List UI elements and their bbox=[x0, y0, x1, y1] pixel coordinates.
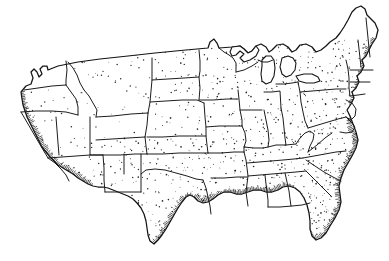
stipple-dot bbox=[120, 214, 122, 216]
stipple-dot bbox=[315, 117, 316, 118]
stipple-dot bbox=[61, 155, 63, 157]
stipple-dot bbox=[162, 200, 164, 202]
stipple-dot bbox=[55, 228, 56, 229]
stipple-dot bbox=[91, 142, 93, 144]
stipple-dot bbox=[377, 195, 379, 197]
stipple-dot bbox=[207, 169, 208, 170]
stipple-dot bbox=[168, 167, 169, 168]
border-ga-fl bbox=[268, 203, 310, 207]
stipple-dot bbox=[67, 242, 68, 243]
stipple-dot bbox=[176, 167, 177, 168]
stipple-dot bbox=[155, 59, 156, 60]
stipple-dot bbox=[102, 200, 103, 201]
stipple-dot bbox=[77, 195, 78, 196]
stipple-dot bbox=[380, 67, 381, 68]
stipple-dot bbox=[363, 199, 364, 200]
stipple-dot bbox=[131, 150, 132, 151]
stipple-dot bbox=[291, 213, 292, 214]
stipple-dot bbox=[104, 137, 105, 138]
stipple-dot bbox=[312, 181, 313, 182]
stipple-dot bbox=[212, 82, 213, 83]
stipple-dot bbox=[150, 220, 151, 221]
stipple-dot bbox=[309, 233, 310, 234]
stipple-dot bbox=[325, 81, 327, 83]
stipple-dot bbox=[155, 128, 156, 129]
stipple-dot bbox=[294, 167, 295, 168]
stipple-dot bbox=[207, 229, 208, 230]
stipple-dot bbox=[146, 202, 147, 203]
stipple-dot bbox=[335, 67, 336, 68]
stipple-dot bbox=[71, 221, 72, 222]
stipple-dot bbox=[158, 192, 159, 193]
stipple-dot bbox=[40, 180, 41, 181]
stipple-dot bbox=[223, 203, 224, 204]
stipple-dot bbox=[343, 113, 344, 114]
stipple-dot bbox=[157, 158, 158, 159]
stipple-dot bbox=[335, 56, 336, 57]
stipple-dot bbox=[346, 81, 348, 83]
stipple-dot bbox=[273, 233, 274, 234]
stipple-dot bbox=[240, 227, 241, 228]
stipple-dot bbox=[34, 177, 35, 178]
stipple-dot bbox=[353, 238, 354, 239]
stipple-dot bbox=[176, 57, 177, 58]
stipple-dot bbox=[33, 171, 35, 173]
stipple-dot bbox=[278, 119, 280, 121]
stipple-dot bbox=[298, 126, 299, 127]
stipple-dot bbox=[159, 97, 160, 98]
stipple-dot bbox=[365, 105, 366, 106]
stipple-dot bbox=[61, 113, 63, 115]
stipple-dot bbox=[247, 219, 248, 220]
stipple-dot bbox=[281, 167, 282, 168]
stipple-dot bbox=[192, 94, 193, 95]
stipple-dot bbox=[356, 238, 358, 240]
stipple-dot bbox=[372, 57, 374, 59]
stipple-dot bbox=[228, 227, 229, 228]
stipple-dot bbox=[67, 108, 68, 109]
stipple-dot bbox=[161, 149, 162, 150]
stipple-dot bbox=[126, 228, 128, 230]
stipple-dot bbox=[350, 184, 352, 186]
stipple-dot bbox=[235, 170, 237, 172]
stipple-dot bbox=[322, 47, 323, 48]
stipple-dot bbox=[132, 177, 133, 178]
stipple-dot bbox=[290, 123, 291, 124]
stipple-dot bbox=[290, 184, 291, 185]
stipple-dot bbox=[253, 166, 255, 168]
stipple-dot bbox=[373, 139, 374, 140]
stipple-dot bbox=[378, 187, 379, 188]
stipple-dot bbox=[358, 149, 359, 150]
stipple-dot bbox=[357, 172, 358, 173]
stipple-dot bbox=[230, 230, 231, 231]
stipple-dot bbox=[287, 110, 288, 111]
stipple-dot bbox=[217, 78, 219, 80]
stipple-dot bbox=[84, 62, 85, 63]
coast-hatch-tick bbox=[303, 207, 307, 208]
stipple-dot bbox=[282, 132, 283, 133]
stipple-dot bbox=[190, 138, 191, 139]
coast-hatch-tick bbox=[304, 206, 307, 207]
stipple-dot bbox=[235, 229, 236, 230]
stipple-dot bbox=[231, 114, 232, 115]
stipple-dot bbox=[197, 187, 198, 188]
stipple-dot bbox=[213, 164, 214, 165]
stipple-dot bbox=[335, 171, 336, 172]
stipple-dot bbox=[252, 217, 253, 218]
stipple-dot bbox=[354, 229, 355, 230]
stipple-dot bbox=[199, 117, 200, 118]
stipple-dot bbox=[315, 41, 316, 42]
stipple-dot bbox=[193, 145, 195, 147]
stipple-dot bbox=[75, 200, 76, 201]
stipple-dot bbox=[352, 76, 353, 77]
stipple-dot bbox=[338, 49, 339, 50]
stipple-dot bbox=[314, 195, 315, 196]
stipple-dot bbox=[377, 135, 379, 137]
stipple-dot bbox=[304, 222, 305, 223]
coast-hatch-tick bbox=[364, 59, 366, 60]
stipple-dot bbox=[285, 168, 286, 169]
stipple-dot bbox=[364, 235, 365, 236]
stipple-dot bbox=[371, 83, 372, 84]
stipple-dot bbox=[20, 147, 21, 148]
stipple-dot bbox=[279, 177, 280, 178]
stipple-dot bbox=[274, 219, 275, 220]
